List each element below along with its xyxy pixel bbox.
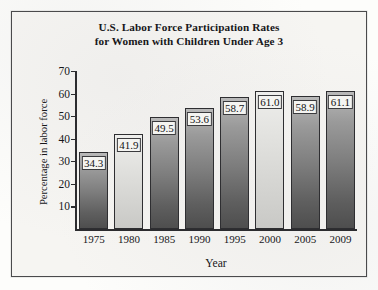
y-axis-tick-mark — [71, 116, 75, 117]
x-axis-tick-label: 1980 — [118, 233, 140, 245]
y-axis-tick-mark — [71, 184, 75, 185]
y-axis-tick-label: 50 — [59, 110, 71, 122]
bar: 34.3 — [79, 152, 108, 229]
bar-value-label: 49.5 — [152, 121, 176, 135]
bar-value-label: 58.7 — [223, 101, 247, 115]
bar: 58.7 — [220, 97, 249, 229]
scanned-page: U.S. Labor Force Participation Rates for… — [0, 0, 378, 290]
x-axis-line — [75, 229, 357, 231]
bar: 49.5 — [150, 117, 179, 229]
x-axis-tick-label: 1990 — [188, 233, 210, 245]
bar-value-label: 61.1 — [328, 95, 352, 109]
x-axis-title: Year — [75, 257, 357, 270]
y-axis-tick-mark — [71, 71, 75, 72]
bar: 58.9 — [291, 96, 320, 229]
bar: 61.0 — [255, 91, 284, 229]
bar: 53.6 — [185, 108, 214, 229]
y-axis-tick-label: 70 — [59, 65, 71, 77]
y-axis-tick-label: 20 — [59, 178, 71, 190]
x-axis-tick-label: 1975 — [83, 233, 105, 245]
y-axis-tick-label: 10 — [59, 200, 71, 212]
y-axis-tick-label: 30 — [59, 155, 71, 167]
y-axis-line — [75, 71, 77, 229]
x-axis-tick-label: 2009 — [329, 233, 351, 245]
bar-value-label: 58.9 — [293, 100, 317, 114]
bar-value-label: 61.0 — [258, 95, 282, 109]
x-axis-tick-label: 1985 — [153, 233, 175, 245]
chart-title-line-1: U.S. Labor Force Participation Rates — [12, 20, 366, 34]
x-axis-tick-label: 2005 — [294, 233, 316, 245]
y-axis-tick-mark — [71, 139, 75, 140]
y-axis-tick-label: 60 — [59, 88, 71, 100]
bar-value-label: 34.3 — [82, 156, 106, 170]
bar-value-label: 41.9 — [117, 138, 141, 152]
y-axis-tick-label: 40 — [59, 133, 71, 145]
bar: 61.1 — [326, 91, 355, 229]
bar-value-label: 53.6 — [187, 112, 211, 126]
plot-area: 70605040302010 34.341.949.553.658.761.05… — [75, 71, 357, 229]
chart-title-line-2: for Women with Children Under Age 3 — [12, 34, 366, 48]
x-axis-tick-label: 1995 — [224, 233, 246, 245]
x-axis-tick-label: 2000 — [259, 233, 281, 245]
bar: 41.9 — [114, 134, 143, 229]
y-axis-tick-mark — [71, 206, 75, 207]
y-axis-tick-mark — [71, 94, 75, 95]
y-axis-tick-mark — [71, 161, 75, 162]
chart-figure: U.S. Labor Force Participation Rates for… — [11, 11, 367, 277]
chart-title: U.S. Labor Force Participation Rates for… — [12, 20, 366, 48]
y-axis-title: Percentage in labor force — [38, 11, 49, 72]
y-axis-title-text: Percentage in labor force — [38, 72, 49, 232]
